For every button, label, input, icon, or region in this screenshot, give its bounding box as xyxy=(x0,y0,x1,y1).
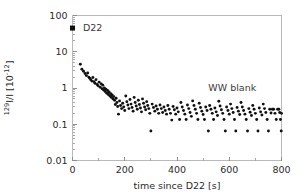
data-point xyxy=(125,100,128,103)
data-point xyxy=(190,115,193,118)
data-point xyxy=(149,130,152,133)
data-point xyxy=(233,118,236,121)
xtick-label: 800 xyxy=(272,164,290,175)
data-point xyxy=(129,98,132,101)
data-point xyxy=(153,110,156,113)
data-point xyxy=(198,102,201,105)
data-point xyxy=(86,72,89,75)
data-point xyxy=(237,110,240,113)
data-point xyxy=(191,99,194,102)
data-point xyxy=(141,97,144,100)
data-point xyxy=(131,106,134,109)
data-point xyxy=(274,112,277,115)
data-point xyxy=(199,106,202,109)
data-point xyxy=(258,107,261,110)
series-d22-sample xyxy=(70,26,75,31)
data-point xyxy=(264,111,267,114)
data-point xyxy=(238,113,241,116)
data-point xyxy=(169,112,172,115)
data-point xyxy=(176,107,179,110)
data-point xyxy=(183,113,186,116)
data-point xyxy=(221,112,224,115)
x-axis-title: time since D22 [s] xyxy=(134,180,221,191)
data-point xyxy=(215,110,218,113)
data-point xyxy=(145,100,148,103)
data-point xyxy=(246,130,249,133)
data-point xyxy=(165,113,168,116)
data-point xyxy=(166,104,169,107)
data-point xyxy=(157,112,160,115)
data-point xyxy=(161,111,164,114)
data-point xyxy=(225,106,228,109)
data-point xyxy=(263,107,266,110)
data-point xyxy=(116,105,119,108)
data-point xyxy=(249,111,252,114)
chart-annotations: D22WW blank xyxy=(83,22,257,92)
data-point xyxy=(250,114,253,117)
data-point xyxy=(139,107,142,110)
data-point xyxy=(213,107,216,110)
data-point xyxy=(146,104,149,107)
data-point xyxy=(122,106,125,109)
data-point xyxy=(177,110,180,113)
data-point xyxy=(196,118,199,121)
data-point xyxy=(144,108,147,111)
data-point xyxy=(115,101,118,104)
data-points xyxy=(70,26,283,133)
data-point xyxy=(267,130,270,133)
data-point xyxy=(187,107,190,110)
data-point xyxy=(270,111,273,114)
data-point xyxy=(162,106,165,109)
data-point xyxy=(272,108,275,111)
data-point xyxy=(210,108,213,111)
data-point xyxy=(160,107,163,110)
data-point xyxy=(207,130,210,133)
series-ww-blank-memory-decay xyxy=(79,63,283,133)
data-point xyxy=(254,112,257,115)
data-point xyxy=(268,108,271,111)
data-point xyxy=(206,109,209,112)
ytick-label: 10 xyxy=(55,46,67,57)
data-point xyxy=(118,99,121,102)
data-point xyxy=(230,107,233,110)
data-point xyxy=(168,108,171,111)
data-point xyxy=(143,106,146,109)
data-point xyxy=(112,95,115,98)
data-point xyxy=(164,109,167,112)
xtick-label: 400 xyxy=(168,164,186,175)
data-point xyxy=(280,112,283,115)
data-point xyxy=(259,110,262,113)
data-point xyxy=(257,130,260,133)
data-point xyxy=(223,118,226,121)
data-point xyxy=(138,103,141,106)
data-point xyxy=(245,118,248,121)
data-point xyxy=(159,104,162,107)
data-point xyxy=(174,113,177,116)
data-point xyxy=(219,104,222,107)
data-point xyxy=(132,110,135,113)
data-point xyxy=(186,104,189,107)
data-point xyxy=(229,103,232,106)
data-point xyxy=(156,108,159,111)
data-point xyxy=(182,109,185,112)
data-point xyxy=(181,106,184,109)
data-point xyxy=(172,105,175,108)
ytick-label: 0.1 xyxy=(52,119,67,130)
axis-titles: time since D22 [s]129I/I [10-12] xyxy=(3,61,220,191)
data-point xyxy=(155,104,158,107)
data-point xyxy=(241,106,244,109)
data-point xyxy=(232,111,235,114)
data-point xyxy=(234,130,237,133)
plot-canvas: 0.010.11101000200400600800 D22WW blank t… xyxy=(0,0,307,194)
data-point xyxy=(253,108,256,111)
data-point xyxy=(140,110,143,113)
data-point xyxy=(200,110,203,113)
data-point xyxy=(152,106,155,109)
data-point xyxy=(130,103,133,106)
data-point xyxy=(178,118,181,121)
data-point xyxy=(266,118,269,121)
data-point xyxy=(193,104,196,107)
data-point xyxy=(185,118,188,121)
data-point xyxy=(123,109,126,112)
data-point xyxy=(142,102,145,105)
